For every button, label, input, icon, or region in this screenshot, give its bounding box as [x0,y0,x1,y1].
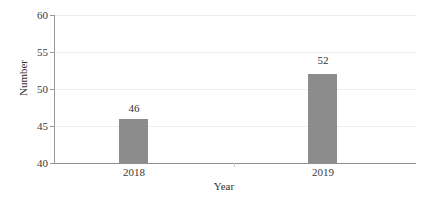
y-tick-40 [50,163,54,164]
bar-value-label-2018: 46 [104,103,164,114]
plot-area [54,15,416,163]
x-axis-mid-tick [234,163,235,167]
y-tick-label-40: 40 [4,158,48,169]
bar-2019[interactable] [308,74,337,163]
y-axis-title: Number [17,38,29,118]
gridline-50 [54,89,416,90]
bar-2018[interactable] [119,119,148,163]
x-tick-label-2018: 2018 [94,167,174,178]
x-tick-label-2019: 2019 [283,167,363,178]
y-tick-label-45: 45 [4,121,48,132]
gridline-60 [54,15,416,16]
gridline-55 [54,52,416,53]
y-tick-label-60: 60 [4,10,48,21]
y-tick-60 [50,15,54,16]
x-axis-line [54,163,416,164]
y-tick-50 [50,89,54,90]
bar-chart: 60 55 50 45 40 2018 2019 46 52 Number Ye… [0,0,433,198]
gridline-45 [54,126,416,127]
bar-value-label-2019: 52 [293,55,353,66]
y-tick-45 [50,126,54,127]
y-axis-line [54,15,55,164]
x-axis-title: Year [184,180,264,192]
y-tick-55 [50,52,54,53]
